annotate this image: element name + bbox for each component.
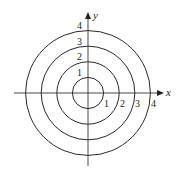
y-axis-tick-labels: 1 2 3 4 xyxy=(77,20,82,78)
y-axis-label: y xyxy=(92,9,98,21)
x-axis-arrow-icon xyxy=(157,90,164,96)
y-label-2: 2 xyxy=(77,51,82,62)
polar-circles-diagram: x y 1 2 3 4 1 2 3 4 xyxy=(0,0,179,175)
x-label-1: 1 xyxy=(104,98,109,109)
x-axis-label: x xyxy=(165,86,171,98)
y-label-4: 4 xyxy=(77,20,82,31)
y-label-1: 1 xyxy=(77,67,82,78)
x-axis-tick-labels: 1 2 3 4 xyxy=(104,98,156,109)
x-label-4: 4 xyxy=(151,98,156,109)
x-label-3: 3 xyxy=(135,98,140,109)
x-label-2: 2 xyxy=(120,98,125,109)
axes xyxy=(14,17,160,166)
y-axis-arrow-icon xyxy=(85,12,91,19)
y-label-3: 3 xyxy=(77,36,82,47)
